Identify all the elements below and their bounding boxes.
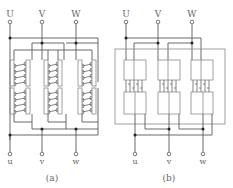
terminal-v-b	[167, 152, 171, 156]
terminal-label-w-b: w	[200, 157, 207, 166]
caption-b: (b)	[163, 173, 176, 183]
terminal-label-v-a: v	[39, 157, 45, 166]
junction-dot	[75, 128, 78, 131]
terminal-U-b	[124, 20, 128, 24]
terminal-label-u-b: u	[132, 157, 137, 166]
disc-windings-b	[124, 60, 213, 114]
junction-dot	[75, 42, 78, 45]
junction-dot	[9, 37, 12, 40]
terminal-label-V-a: V	[38, 9, 46, 19]
terminal-label-w-a: w	[73, 157, 80, 166]
terminal-V-a	[40, 20, 44, 24]
terminal-label-u-a: u	[7, 157, 12, 166]
terminal-w-a	[74, 152, 78, 156]
junction-dot	[134, 134, 137, 137]
junction-dot	[41, 42, 44, 45]
junction-dot	[202, 128, 205, 131]
terminal-u-a	[8, 152, 12, 156]
terminal-u-b	[133, 152, 137, 156]
terminal-W-a	[74, 20, 78, 24]
terminal-label-V-b: V	[154, 9, 162, 19]
terminal-label-U-a: U	[6, 9, 14, 19]
terminal-w-b	[201, 152, 205, 156]
terminal-W-b	[190, 20, 194, 24]
terminal-v-a	[40, 152, 44, 156]
terminal-label-W-b: W	[187, 9, 197, 19]
terminal-V-b	[156, 20, 160, 24]
panel-b: U V W	[115, 9, 225, 183]
caption-a: (a)	[46, 173, 58, 183]
terminal-label-W-a: W	[71, 9, 81, 19]
junction-dot	[125, 37, 128, 40]
panel-a: U V W	[6, 9, 98, 183]
junction-dot	[168, 128, 171, 131]
terminal-U-a	[8, 20, 12, 24]
junction-dot	[157, 42, 160, 45]
junction-dot	[191, 42, 194, 45]
junction-dot	[41, 128, 44, 131]
junction-dot	[9, 134, 12, 137]
coil-groups-a	[10, 60, 96, 114]
transformer-winding-diagram: U V W	[0, 0, 233, 188]
terminal-label-v-b: v	[166, 157, 172, 166]
terminal-label-U-b: U	[122, 9, 130, 19]
